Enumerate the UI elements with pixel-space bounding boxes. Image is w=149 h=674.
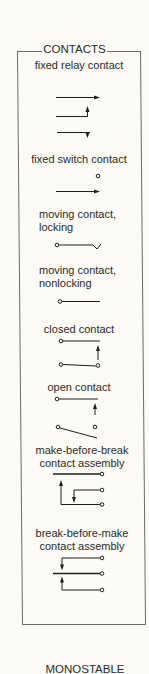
moving-contact-nonlocking-symbol — [58, 300, 100, 304]
fixed-relay-contact-symbol — [56, 96, 100, 139]
moving-contact-locking-symbol — [55, 243, 101, 249]
make-before-break-symbol — [53, 472, 104, 506]
monostable-heading: MONOSTABLE — [0, 663, 149, 674]
break-before-make-symbol — [53, 556, 104, 592]
closed-contact-symbol — [59, 339, 100, 367]
contact-symbols-drawing — [0, 0, 149, 674]
open-contact-symbol — [55, 397, 98, 438]
fixed-switch-contact-symbol — [56, 174, 100, 193]
